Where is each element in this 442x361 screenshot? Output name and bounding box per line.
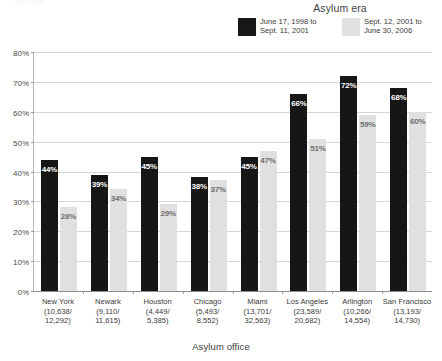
bar-value-label: 38%: [191, 182, 208, 191]
bar-group: 66%51%: [283, 53, 333, 291]
bar-era2[interactable]: 28%: [60, 207, 77, 291]
bar-value-label: 29%: [160, 209, 177, 218]
bar-group: 68%60%: [383, 53, 433, 291]
legend-item-era1: June 17, 1998 to Sept. 11, 2001: [238, 17, 342, 36]
legend-label-era1-line1: June 17, 1998 to: [260, 17, 317, 26]
bar-era1[interactable]: 38%: [191, 177, 208, 291]
bar-value-label: 45%: [141, 162, 158, 171]
bar-group: 38%37%: [184, 53, 234, 291]
legend-label-era2-line2: June 30, 2006: [364, 26, 412, 35]
x-axis-tick: [83, 291, 84, 294]
plot-area: 44%28%39%34%45%29%38%37%45%47%66%51%72%5…: [33, 53, 432, 292]
bar-era1[interactable]: 45%: [241, 157, 258, 291]
legend-items: June 17, 1998 to Sept. 11, 2001 Sept. 12…: [238, 17, 442, 36]
bar-value-label: 47%: [260, 156, 277, 165]
legend-label-era2: Sept. 12, 2001 to June 30, 2006: [364, 17, 422, 35]
x-axis-tick: [332, 291, 333, 294]
bar-era1[interactable]: 44%: [41, 160, 58, 291]
legend-swatch-era2-icon: [342, 18, 360, 36]
bar-era1[interactable]: 66%: [290, 94, 307, 291]
category-count-era2: 14,730): [378, 316, 436, 326]
bar-value-label: 45%: [241, 162, 258, 171]
legend-label-era1-line2: Sept. 11, 2001: [260, 26, 309, 35]
y-axis-label: 0%: [0, 288, 29, 297]
x-axis-category-label: San Francisco(13,193/14,730): [378, 297, 436, 326]
y-axis-label: 80%: [0, 49, 29, 58]
x-axis-tick: [233, 291, 234, 294]
bar-era2[interactable]: 29%: [160, 204, 177, 291]
y-axis-label: 70%: [0, 78, 29, 87]
category-name: San Francisco: [378, 297, 436, 307]
bar-era1[interactable]: 68%: [390, 88, 407, 291]
bar-value-label: 44%: [41, 165, 58, 174]
y-axis-label: 40%: [0, 168, 29, 177]
bar-value-label: 66%: [290, 99, 307, 108]
bar-value-label: 39%: [91, 180, 108, 189]
y-axis-label: 50%: [0, 138, 29, 147]
legend-swatch-era1-icon: [238, 18, 256, 36]
bar-value-label: 68%: [390, 93, 407, 102]
x-axis-tick: [282, 291, 283, 294]
bar-era2[interactable]: 60%: [409, 112, 426, 291]
bar-era2[interactable]: 59%: [359, 115, 376, 291]
bar-group: 44%28%: [34, 53, 84, 291]
bar-era2[interactable]: 34%: [110, 189, 127, 291]
bar-era2[interactable]: 37%: [210, 180, 227, 291]
bar-value-label: 51%: [309, 144, 326, 153]
bar-era1[interactable]: 39%: [91, 175, 108, 292]
x-axis-tick: [133, 291, 134, 294]
bar-value-label: 60%: [409, 117, 426, 126]
bar-value-label: 37%: [210, 185, 227, 194]
category-count-era1: (13,193/: [378, 307, 436, 317]
bar-value-label: 59%: [359, 120, 376, 129]
x-axis-title: Asylum office: [0, 341, 442, 352]
bar-value-label: 72%: [340, 81, 357, 90]
x-axis-tick: [183, 291, 184, 294]
y-axis-label: 60%: [0, 108, 29, 117]
bar-group: 45%47%: [234, 53, 284, 291]
bar-group: 39%34%: [84, 53, 134, 291]
y-axis-label: 20%: [0, 228, 29, 237]
bar-value-label: 34%: [110, 194, 127, 203]
legend-label-era2-line1: Sept. 12, 2001 to: [364, 17, 422, 26]
bar-era1[interactable]: 72%: [340, 76, 357, 291]
bar-era2[interactable]: 47%: [260, 151, 277, 291]
bar-era2[interactable]: 51%: [309, 139, 326, 291]
y-axis-label: 10%: [0, 258, 29, 267]
bar-group: 45%29%: [134, 53, 184, 291]
legend-title: Asylum era: [238, 2, 442, 14]
legend-label-era1: June 17, 1998 to Sept. 11, 2001: [260, 17, 317, 35]
bar-group: 72%59%: [333, 53, 383, 291]
y-axis-tick: [31, 291, 34, 292]
bar-value-label: 28%: [60, 212, 77, 221]
bar-era1[interactable]: 45%: [141, 157, 158, 291]
clipped-header-text: 30, 2006: [14, 0, 45, 5]
x-axis-tick: [382, 291, 383, 294]
legend-item-era2: Sept. 12, 2001 to June 30, 2006: [342, 17, 422, 36]
chart-legend: Asylum era June 17, 1998 to Sept. 11, 20…: [238, 2, 442, 36]
y-axis-label: 30%: [0, 198, 29, 207]
